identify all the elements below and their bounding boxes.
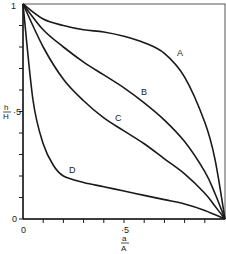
x-axis-label-numerator: a — [122, 234, 127, 243]
chart: 1 ·5 0 0 ·5 h H a A A B C D — [0, 0, 226, 254]
curve-label-c: C — [115, 113, 122, 123]
x-tick-label-0: 0 — [21, 225, 26, 235]
y-tick-label-1: 1 — [11, 1, 16, 11]
curves — [23, 4, 225, 219]
curve-label-a: A — [177, 48, 183, 58]
y-tick-label-half: ·5 — [13, 107, 21, 117]
y-axis-label-denominator: H — [3, 112, 9, 121]
x-axis-label-denominator: A — [121, 244, 127, 253]
curve-a — [23, 4, 225, 219]
y-axis-label-numerator: h — [4, 103, 8, 112]
curve-label-d: D — [69, 165, 76, 175]
y-tick-label-0: 0 — [12, 214, 17, 224]
curve-label-b: B — [141, 87, 147, 97]
